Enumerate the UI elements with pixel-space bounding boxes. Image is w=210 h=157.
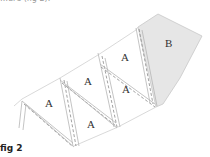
panel-label-b: B bbox=[165, 37, 172, 49]
folding-diagram: A A A A A B bbox=[0, 0, 210, 157]
panel-label-a-4: A bbox=[122, 83, 130, 95]
panel-label-a-1: A bbox=[45, 97, 53, 109]
panel-label-a-5: A bbox=[87, 118, 95, 130]
panel-label-a-2: A bbox=[84, 75, 92, 87]
figure-caption: fig 2 bbox=[0, 143, 23, 153]
panel-label-a-3: A bbox=[121, 51, 129, 63]
panel-b-shape bbox=[138, 14, 202, 107]
